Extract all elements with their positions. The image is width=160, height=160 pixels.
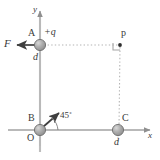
dotted-line-p-to-c <box>119 47 120 127</box>
field-point-p-dot <box>118 43 122 47</box>
origin-label-O: O <box>27 133 34 143</box>
point-label-C: C <box>122 113 129 123</box>
force-label-F: F <box>4 38 11 49</box>
x-axis-label: x <box>148 131 152 140</box>
distance-label-d-C: d <box>114 137 119 147</box>
angle-label-45: 45˚ <box>60 111 72 120</box>
charge-label-plus-q: +q <box>44 27 56 37</box>
distance-label-d-A: d <box>33 52 38 62</box>
point-label-B: B <box>28 113 35 123</box>
charge-sphere-C <box>112 124 123 135</box>
point-label-p: p <box>121 28 126 38</box>
diagram-canvas <box>0 0 160 160</box>
y-axis-label: y <box>33 5 37 14</box>
angle-arc-45 <box>52 118 58 130</box>
charge-sphere-B <box>34 124 45 135</box>
physics-diagram: y x A +q d F p B O 45˚ C d <box>0 0 160 160</box>
charge-sphere-A <box>34 39 45 50</box>
point-label-A: A <box>28 28 35 38</box>
